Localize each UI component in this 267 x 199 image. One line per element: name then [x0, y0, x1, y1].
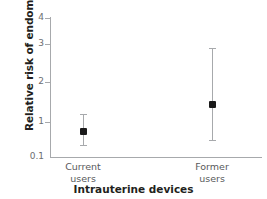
chart-figure: Relative risk of endometriosis 4 3 2 1 0…: [0, 0, 267, 199]
y-tick-label-3: 3: [20, 39, 44, 48]
y-tick-mark-2: [45, 82, 50, 83]
y-tick-mark-1: [45, 122, 50, 123]
y-axis-line: [50, 17, 51, 158]
x-category-label-current-users: Current users: [41, 161, 125, 184]
data-point-current-users[interactable]: [80, 128, 87, 135]
y-tick-mark-4: [45, 18, 50, 19]
x-category-label-former-users: Former users: [170, 161, 254, 184]
x-axis-line: [50, 157, 262, 158]
y-tick-label-1: 1: [20, 117, 44, 126]
y-tick-label-0-1: 0.1: [20, 152, 44, 161]
errorbar-cap-lower-former-users: [209, 140, 216, 141]
errorbar-former-users: [212, 48, 213, 140]
y-tick-label-4: 4: [20, 13, 44, 22]
errorbar-cap-lower-current-users: [80, 145, 87, 146]
x-category-label-current-users-line1: Current: [41, 161, 125, 173]
errorbar-cap-upper-former-users: [209, 48, 216, 49]
errorbar-cap-upper-current-users: [80, 114, 87, 115]
x-axis-title: Intrauterine devices: [0, 183, 267, 195]
y-tick-mark-3: [45, 44, 50, 45]
data-point-former-users[interactable]: [209, 101, 216, 108]
x-category-label-former-users-line1: Former: [170, 161, 254, 173]
y-tick-label-2: 2: [20, 77, 44, 86]
